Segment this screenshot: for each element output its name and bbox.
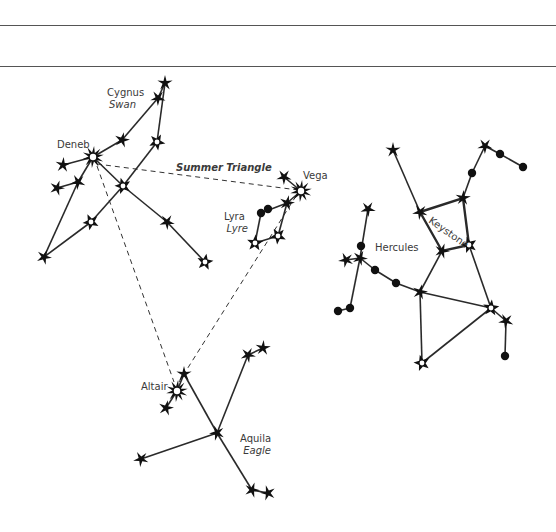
star-dot-icon	[357, 242, 365, 250]
star-filled-icon	[159, 400, 174, 415]
star-dot-icon	[468, 169, 476, 177]
constellation-line	[167, 222, 205, 262]
summer-triangle-segment	[97, 166, 174, 382]
label-deneb: Deneb	[57, 139, 90, 150]
star-dot-icon	[371, 266, 379, 274]
constellation-line	[393, 150, 420, 212]
stars-aquila	[133, 340, 274, 500]
star-open-center	[155, 140, 160, 145]
star-dot-icon	[501, 352, 509, 360]
constellation-aquila	[141, 348, 268, 493]
star-filled-icon	[338, 253, 353, 268]
star-chart: CygnusSwanDenebSummer TriangleVegaLyraLy…	[0, 0, 556, 532]
star-filled-icon	[435, 243, 450, 258]
label-aquila: Aquila	[240, 433, 271, 444]
star-dot-icon	[334, 307, 342, 315]
summer-triangle-lines	[97, 164, 298, 382]
star-filled-icon	[209, 426, 224, 441]
star-filled-icon	[256, 340, 271, 355]
star-open-center	[420, 361, 425, 366]
star-filled-icon	[361, 202, 376, 217]
stars-lyra	[247, 170, 312, 250]
star-filled-icon	[176, 366, 191, 380]
star-filled-icon	[50, 180, 65, 195]
constellation-line	[422, 308, 491, 363]
constellation-line	[44, 222, 91, 257]
star-filled-icon	[133, 452, 148, 467]
star-filled-icon	[115, 132, 130, 147]
constellation-hercules	[338, 146, 523, 363]
constellation-line	[91, 186, 123, 222]
label-summer-triangle: Summer Triangle	[176, 162, 272, 173]
label-vega: Vega	[303, 170, 328, 181]
star-dot-icon	[264, 205, 272, 213]
star-filled-icon	[70, 175, 85, 190]
star-filled-icon	[276, 170, 291, 185]
star-open-center	[121, 184, 126, 189]
constellation-line	[123, 186, 167, 222]
star-dot-icon	[346, 304, 354, 312]
label-lyra: Lyra	[224, 211, 245, 222]
bright-star-center	[298, 188, 304, 194]
constellation-line	[217, 355, 248, 433]
star-dot-icon	[392, 279, 400, 287]
stars	[37, 75, 527, 501]
label-keystone: Keystone	[427, 215, 471, 250]
constellation-line	[420, 292, 491, 308]
star-open-center	[276, 234, 281, 239]
constellation-line	[469, 245, 491, 308]
constellation-line	[420, 251, 442, 292]
label-lyre: Lyre	[227, 223, 248, 234]
label-altair: Altair	[141, 381, 168, 392]
constellation-line	[93, 140, 122, 157]
star-open-center	[203, 260, 208, 265]
star-filled-icon	[412, 205, 427, 220]
star-filled-icon	[260, 485, 275, 500]
constellation-line	[350, 258, 360, 308]
constellation-line	[420, 292, 422, 363]
stars-hercules	[334, 139, 527, 370]
constellation-line	[123, 142, 157, 186]
star-open-center	[89, 220, 94, 225]
star-filled-icon	[385, 142, 400, 156]
constellation-line	[472, 146, 485, 173]
label-swan: Swan	[109, 99, 136, 110]
constellation-line	[141, 433, 217, 459]
constellation-line	[44, 182, 78, 257]
bright-star-center	[174, 388, 180, 394]
star-filled-icon	[241, 348, 256, 363]
star-dot-icon	[496, 150, 504, 158]
star-filled-icon	[56, 157, 71, 172]
star-dot-icon	[519, 163, 527, 171]
constellation-line	[93, 157, 123, 186]
label-hercules: Hercules	[375, 242, 419, 253]
star-filled-icon	[477, 139, 492, 154]
constellation-line	[360, 209, 368, 258]
label-eagle: Eagle	[243, 445, 271, 456]
star-open-center	[253, 241, 258, 246]
star-open-center	[489, 306, 494, 311]
constellation-lines	[44, 83, 523, 493]
bright-star-center	[90, 154, 96, 160]
label-cygnus: Cygnus	[107, 87, 144, 98]
constellation-line	[184, 374, 217, 433]
star-filled-icon	[245, 482, 260, 497]
